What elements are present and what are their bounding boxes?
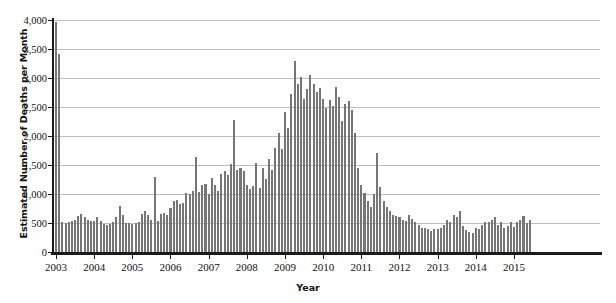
bar [427, 229, 429, 252]
bar [122, 215, 124, 252]
bar [494, 217, 496, 252]
bar [103, 224, 105, 252]
bar [150, 220, 152, 252]
bar [224, 171, 226, 252]
bar [90, 221, 92, 252]
bar [189, 194, 191, 252]
bar [198, 192, 200, 252]
bar [402, 220, 404, 252]
bar [383, 201, 385, 252]
bar [259, 188, 261, 252]
bar [386, 207, 388, 252]
bar [109, 224, 111, 252]
bar [58, 54, 60, 252]
bar [421, 228, 423, 252]
bar [154, 177, 156, 252]
y-tick-label: 2,000 [5, 131, 47, 142]
bar [465, 230, 467, 252]
bar [392, 215, 394, 252]
bar [195, 157, 197, 252]
bar [287, 128, 289, 252]
bar [488, 222, 490, 252]
y-tick-label: 1,500 [5, 160, 47, 171]
bar [243, 171, 245, 252]
bar [157, 221, 159, 252]
bar [211, 178, 213, 252]
bar [453, 215, 455, 252]
bar [80, 214, 82, 252]
plot-area: 05001,0001,5002,0002,5003,0003,5004,000 … [53, 20, 600, 252]
bar [233, 120, 235, 252]
bar [376, 153, 378, 252]
bar [278, 133, 280, 252]
bar [147, 215, 149, 252]
bar [351, 110, 353, 252]
bar [459, 211, 461, 252]
bar [84, 217, 86, 252]
bar [262, 168, 264, 252]
bar [138, 222, 140, 252]
bar [373, 194, 375, 252]
bar [135, 223, 137, 252]
bar [519, 220, 521, 252]
bar [475, 228, 477, 252]
y-tick-label: 3,500 [5, 44, 47, 55]
y-tick-label: 2,500 [5, 102, 47, 113]
bar [348, 101, 350, 252]
y-tick-label: 0 [5, 247, 47, 258]
bar [119, 206, 121, 252]
bar [433, 229, 435, 252]
bar [446, 220, 448, 252]
y-tick-label: 1,000 [5, 189, 47, 200]
bar [300, 77, 302, 252]
bar [166, 215, 168, 252]
bar [491, 220, 493, 252]
bar [329, 100, 331, 252]
bar [265, 179, 267, 252]
bar [112, 222, 114, 252]
bar [236, 170, 238, 252]
bar [204, 184, 206, 252]
bar [503, 228, 505, 252]
bar [144, 211, 146, 252]
bar [363, 193, 365, 252]
bar [201, 185, 203, 252]
bar [125, 223, 127, 252]
bar [354, 133, 356, 252]
bar [96, 217, 98, 252]
bar [513, 227, 515, 252]
bar [481, 225, 483, 252]
bar [268, 159, 270, 252]
bar [208, 194, 210, 252]
bar [217, 191, 219, 252]
bar [274, 148, 276, 252]
bar [176, 200, 178, 252]
bar [472, 233, 474, 252]
bar [100, 221, 102, 252]
bar [405, 221, 407, 252]
bar [214, 185, 216, 252]
bar [418, 225, 420, 252]
bar [316, 92, 318, 252]
bar [424, 228, 426, 252]
bar-chart: Estimated Number of Deaths per Month 050… [0, 0, 616, 303]
bar [55, 22, 57, 252]
bar [115, 217, 117, 252]
bar [449, 222, 451, 252]
bar [510, 222, 512, 252]
x-tick-label: 2015 [491, 261, 537, 273]
bar [230, 164, 232, 252]
bar [290, 94, 292, 252]
bar [529, 220, 531, 252]
bar [169, 208, 171, 252]
bar [160, 214, 162, 252]
y-tick-label: 500 [5, 218, 47, 229]
bar [338, 97, 340, 252]
bar [526, 223, 528, 252]
bar [484, 222, 486, 252]
bar [309, 75, 311, 252]
bar [379, 187, 381, 252]
bar [297, 84, 299, 252]
bar [313, 84, 315, 252]
bar [61, 222, 63, 252]
